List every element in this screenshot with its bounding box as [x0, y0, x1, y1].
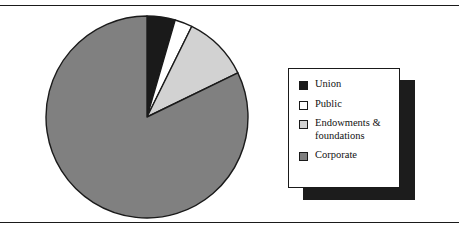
bottom-rule	[0, 222, 459, 223]
pie-chart	[44, 14, 250, 220]
legend-list: UnionPublicEndowments & foundationsCorpo…	[299, 78, 395, 162]
pie-slice-group	[46, 16, 248, 218]
legend-swatch-icon	[299, 152, 308, 161]
legend-item: Corporate	[299, 149, 395, 162]
pie-chart-svg	[44, 14, 250, 220]
legend-box: UnionPublicEndowments & foundationsCorpo…	[288, 68, 400, 188]
top-rule	[0, 5, 459, 6]
legend-item-label: Corporate	[315, 149, 357, 162]
legend-swatch-icon	[299, 81, 308, 90]
figure-canvas: UnionPublicEndowments & foundationsCorpo…	[0, 0, 459, 228]
legend-item: Endowments & foundations	[299, 117, 395, 142]
legend-item-label: Public	[315, 98, 342, 111]
legend-item-label: Endowments & foundations	[315, 117, 381, 142]
legend-swatch-icon	[299, 101, 308, 110]
legend-item-label: Union	[315, 78, 341, 91]
legend-item: Public	[299, 98, 395, 111]
legend-item: Union	[299, 78, 395, 91]
legend-swatch-icon	[299, 120, 308, 129]
